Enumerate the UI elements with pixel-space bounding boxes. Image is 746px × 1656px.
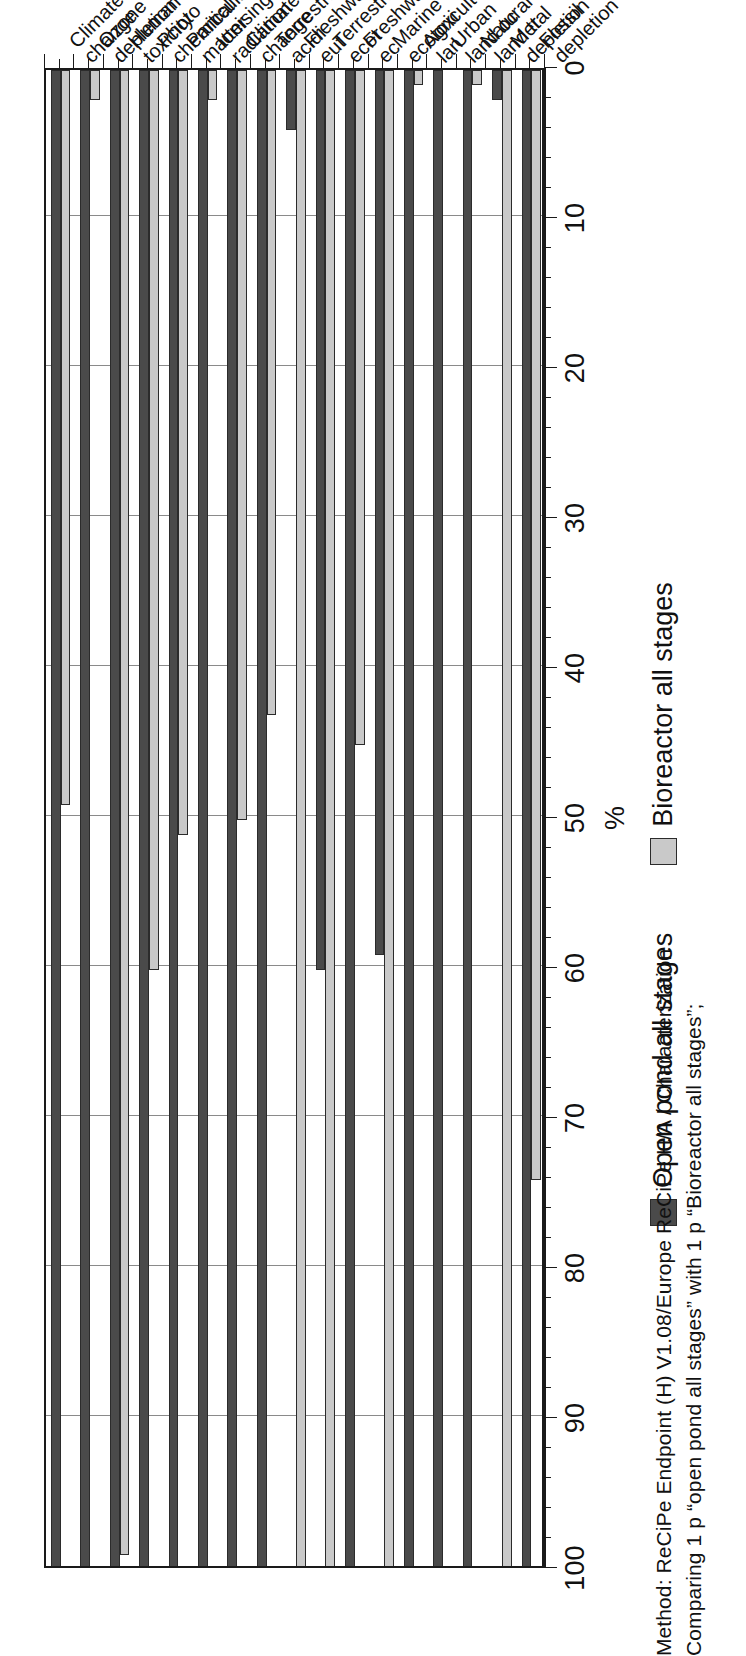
bar <box>325 70 335 1568</box>
value-tick-major <box>544 517 557 518</box>
value-axis-labels: 1009080706050403020100 <box>560 68 594 1568</box>
bar <box>169 70 179 1568</box>
bar <box>463 70 473 1568</box>
value-tick-minor <box>544 907 551 908</box>
category-tick-minor <box>59 59 60 68</box>
bar <box>267 70 277 715</box>
value-tick-minor <box>544 1327 551 1328</box>
value-tick-label: 70 <box>560 1103 591 1133</box>
value-axis-title: % <box>600 68 631 1568</box>
value-tick-minor <box>544 427 551 428</box>
value-tick-minor <box>544 697 551 698</box>
value-tick-major <box>544 667 557 668</box>
bar <box>208 70 218 100</box>
value-tick-minor <box>544 247 551 248</box>
bar <box>375 70 385 955</box>
bar <box>492 70 502 100</box>
value-tick-label: 20 <box>560 353 591 383</box>
bar <box>355 70 365 745</box>
value-tick-minor <box>544 577 551 578</box>
value-tick-minor <box>544 1147 551 1148</box>
bar <box>433 70 443 1568</box>
bar <box>502 70 512 1568</box>
value-tick-minor <box>544 547 551 548</box>
value-tick-minor <box>544 937 551 938</box>
bar <box>522 70 532 1568</box>
value-tick-label: 40 <box>560 653 591 683</box>
bar <box>198 70 208 1568</box>
value-tick-minor <box>544 1087 551 1088</box>
value-tick-minor <box>544 1237 551 1238</box>
value-tick-label: 80 <box>560 1253 591 1283</box>
bar <box>110 70 120 1568</box>
value-tick-minor <box>544 1207 551 1208</box>
bar <box>531 70 541 1180</box>
value-tick-minor <box>544 1507 551 1508</box>
bar <box>316 70 326 970</box>
legend-label: Bioreactor all stages <box>648 582 679 827</box>
figure-root: 1009080706050403020100 % ClimatechangeOz… <box>0 0 746 1656</box>
value-tick-label: 30 <box>560 503 591 533</box>
value-tick-minor <box>544 337 551 338</box>
legend-item: Bioreactor all stages <box>648 582 679 865</box>
bar <box>384 70 394 1568</box>
category-tick <box>44 54 45 68</box>
bar <box>472 70 482 85</box>
value-tick-major <box>544 1417 557 1418</box>
value-tick-minor <box>544 487 551 488</box>
bar <box>404 70 414 1568</box>
value-tick-label: 100 <box>560 1545 591 1591</box>
value-tick-minor <box>544 757 551 758</box>
value-tick-minor <box>544 727 551 728</box>
value-axis-line <box>544 68 546 1568</box>
value-tick-minor <box>544 607 551 608</box>
bar <box>286 70 296 130</box>
value-tick-minor <box>544 637 551 638</box>
bar <box>257 70 267 1568</box>
category-axis-labels: ClimatechangeOzonedepletionHumantoxicity… <box>44 0 544 52</box>
value-tick-minor <box>544 877 551 878</box>
bar <box>90 70 100 100</box>
value-tick-major <box>544 967 557 968</box>
value-tick-minor <box>544 1357 551 1358</box>
value-tick-major <box>544 367 557 368</box>
bar <box>80 70 90 1568</box>
value-tick-minor <box>544 1297 551 1298</box>
value-tick-minor <box>544 277 551 278</box>
legend-swatch <box>650 838 677 865</box>
value-tick-minor <box>544 97 551 98</box>
value-tick-minor <box>544 1477 551 1478</box>
value-tick-minor <box>544 187 551 188</box>
caption-line-2: Comparing 1 p “open pond all stages” wit… <box>682 1003 706 1656</box>
bar <box>61 70 71 805</box>
value-tick-minor <box>544 1537 551 1538</box>
bar <box>414 70 424 85</box>
bar <box>149 70 159 970</box>
bar <box>296 70 306 1568</box>
value-tick-major <box>544 1567 557 1568</box>
value-tick-minor <box>544 457 551 458</box>
value-tick-minor <box>544 1447 551 1448</box>
value-tick-major <box>544 67 557 68</box>
value-tick-minor <box>544 157 551 158</box>
value-tick-label: 50 <box>560 803 591 833</box>
value-tick-minor <box>544 397 551 398</box>
value-tick-label: 90 <box>560 1403 591 1433</box>
bar <box>120 70 130 1555</box>
value-tick-minor <box>544 127 551 128</box>
bar <box>237 70 247 820</box>
bar <box>178 70 188 835</box>
value-tick-minor <box>544 997 551 998</box>
value-tick-major <box>544 1267 557 1268</box>
value-tick-major <box>544 217 557 218</box>
value-tick-minor <box>544 787 551 788</box>
bar <box>139 70 149 1568</box>
value-tick-label: 60 <box>560 953 591 983</box>
plot-frame <box>44 68 544 1568</box>
bar <box>345 70 355 1568</box>
value-tick-minor <box>544 1177 551 1178</box>
category-tick <box>73 54 74 68</box>
plot-area <box>44 68 544 1568</box>
rotated-chart-stage: 1009080706050403020100 % ClimatechangeOz… <box>0 0 746 1656</box>
value-tick-minor <box>544 307 551 308</box>
